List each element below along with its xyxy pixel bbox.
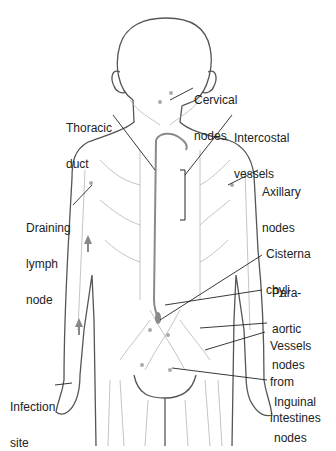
label-line: site (10, 437, 55, 449)
label-cervical-nodes: Cervical nodes (194, 70, 237, 154)
label-line: Thoracic (66, 122, 112, 134)
label-line: lymph (26, 258, 71, 270)
label-line: nodes (194, 130, 237, 142)
label-line: Vessels (270, 340, 321, 352)
thoracic-duct (154, 134, 187, 322)
label-line: Cisterna (266, 248, 311, 260)
label-line: nodes (274, 432, 316, 444)
cisterna-chyli-shape (155, 312, 161, 324)
label-line: Inguinal (274, 396, 316, 408)
label-inguinal-nodes: Inguinal nodes (274, 372, 316, 451)
flow-arrows (75, 235, 92, 335)
intercostal-bracket (180, 170, 185, 220)
label-line: duct (66, 158, 112, 170)
label-line: Intercostal (234, 132, 289, 144)
label-line: Para- (272, 287, 305, 299)
label-line: Infection (10, 401, 55, 413)
label-thoracic-duct: Thoracic duct (66, 98, 112, 182)
label-draining-lymph-node: Draining lymph node (26, 198, 71, 318)
body-outline (56, 18, 272, 446)
label-line: node (26, 294, 71, 306)
label-line: Cervical (194, 94, 237, 106)
label-line: Draining (26, 222, 71, 234)
label-infection-site: Infection site (10, 377, 55, 451)
label-line: Axillary (262, 186, 301, 198)
